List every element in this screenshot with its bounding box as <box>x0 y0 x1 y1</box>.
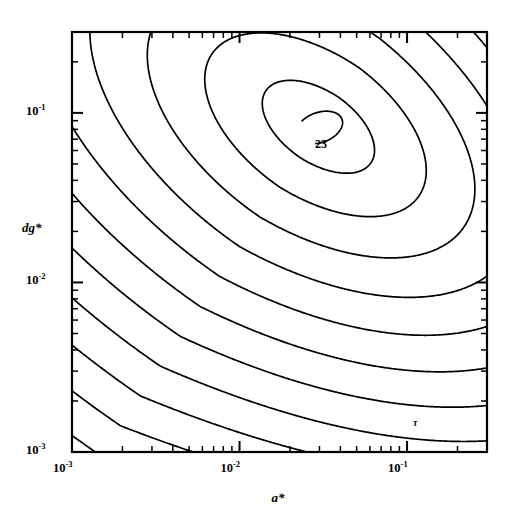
contour-line <box>72 345 307 452</box>
peak-contour-label: 23 <box>315 137 327 152</box>
axis-ticks-group <box>72 32 487 452</box>
contour-line <box>72 391 193 452</box>
contour-line <box>72 193 487 372</box>
x-axis-title: a* <box>272 490 285 506</box>
y-tick-label-1e-3: 10-3 <box>26 443 46 458</box>
contour-line <box>205 33 427 217</box>
contour-line <box>72 435 95 452</box>
y-tick-label-1e-1: 10-1 <box>26 104 46 119</box>
contour-lines-group <box>72 32 487 452</box>
plot-frame <box>72 32 487 452</box>
contour-line <box>262 80 374 173</box>
y-tick-label-1e-2: 10-2 <box>26 273 46 288</box>
contour-line <box>72 298 487 442</box>
plot-canvas <box>0 0 519 521</box>
tau-region-label: τ <box>413 417 417 428</box>
contour-line <box>72 248 487 407</box>
x-tick-label-1e-1: 10-1 <box>388 461 408 476</box>
x-tick-label-1e-3: 10-3 <box>53 461 73 476</box>
contour-line <box>147 32 475 258</box>
contour-line <box>474 32 487 48</box>
plot-frame-group <box>72 32 487 452</box>
x-tick-label-1e-2: 10-2 <box>221 461 241 476</box>
y-axis-title: dg* <box>22 220 42 236</box>
contour-plot-figure: 10-3 10-2 10-1 10-1 10-2 10-3 a* dg* 23 … <box>0 0 519 521</box>
